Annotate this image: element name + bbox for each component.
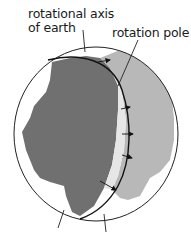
bottom-leader-right <box>104 214 106 232</box>
axis-label-line2: of earth <box>28 21 76 35</box>
original-continent-shape <box>22 56 118 216</box>
axis-leader-line <box>83 30 85 52</box>
rotation-pole-label: rotation pole <box>112 26 189 40</box>
axis-label-line1: rotational axis <box>28 7 114 21</box>
